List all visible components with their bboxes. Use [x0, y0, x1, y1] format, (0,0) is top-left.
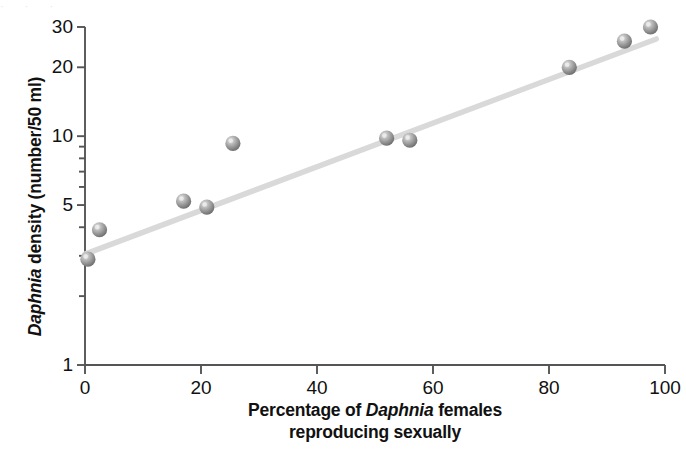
x-tick-label: 40 — [306, 377, 327, 399]
data-point — [643, 19, 658, 34]
y-tick-label: 30 — [20, 16, 73, 38]
data-point — [617, 34, 632, 49]
scatter-plot — [0, 0, 686, 460]
data-point — [176, 194, 191, 209]
axis-lines — [77, 27, 665, 374]
data-markers — [80, 19, 658, 266]
y-tick-label: 5 — [20, 194, 73, 216]
data-point — [92, 222, 107, 237]
data-point — [379, 131, 394, 146]
data-point — [225, 136, 240, 151]
x-tick-label: 60 — [422, 377, 443, 399]
data-point — [80, 252, 95, 267]
data-point — [402, 133, 417, 148]
x-tick-label: 0 — [80, 377, 91, 399]
figure-panel: · · · Daphnia density (number/50 ml) Per… — [0, 0, 686, 460]
y-tick-label: 10 — [20, 125, 73, 147]
x-tick-label: 20 — [190, 377, 211, 399]
data-point — [562, 60, 577, 75]
x-tick-label: 80 — [538, 377, 559, 399]
y-tick-label: 1 — [20, 354, 73, 376]
x-tick-label: 100 — [649, 377, 681, 399]
data-point — [199, 199, 214, 214]
y-tick-label: 20 — [20, 56, 73, 78]
